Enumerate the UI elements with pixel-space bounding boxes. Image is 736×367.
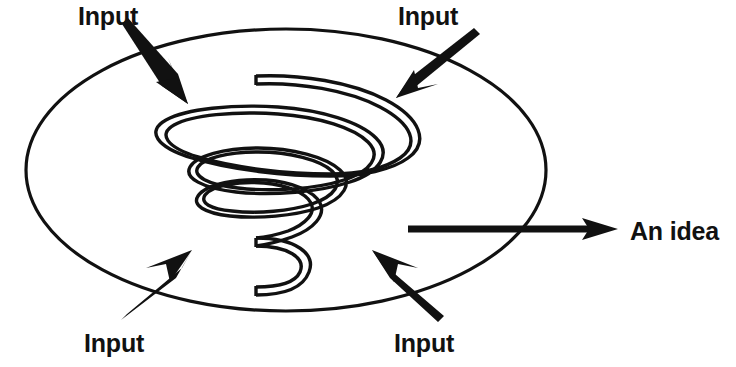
label-input-top-left: Input — [78, 2, 139, 30]
boundary-ellipse — [26, 29, 546, 311]
idea-arrow-shaft — [408, 226, 590, 233]
idea-diagram: Input Input Input Input An idea — [0, 0, 736, 367]
diagram-canvas: Input Input Input Input An idea — [0, 0, 736, 367]
label-input-top-right: Input — [398, 2, 459, 30]
label-input-bottom-right: Input — [394, 329, 455, 357]
arrow-head-bottom-right — [372, 250, 418, 282]
arrow-head-bottom-left — [146, 250, 192, 282]
label-an-idea: An idea — [630, 217, 720, 245]
spiral-tail-outer — [256, 246, 301, 287]
spiral-outer-edge — [156, 76, 420, 246]
label-input-bottom-left: Input — [84, 329, 145, 357]
spiral-coil — [156, 75, 420, 296]
input-arrow-top-left — [122, 18, 188, 104]
input-arrow-top-right — [396, 28, 480, 98]
